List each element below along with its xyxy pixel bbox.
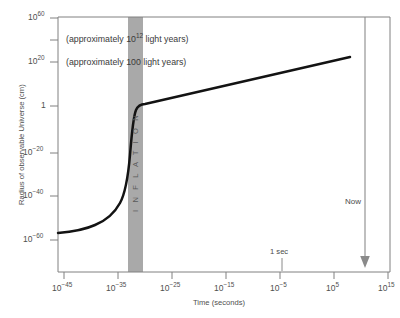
chart-plot-area	[0, 0, 400, 318]
annotation-1e12-light-years: (approximately 1012 light years)	[66, 35, 189, 44]
y-tick-label-1e-40: 10−40	[23, 191, 43, 200]
x-tick-label-1e-35: 10−35	[106, 284, 126, 293]
y-tick-label-1e-20: 10−20	[23, 148, 43, 157]
chart-figure: 1060 1020 1 10−20 10−40 10−60 Radius of …	[0, 0, 400, 318]
universe-radius-curve	[58, 57, 350, 233]
x-tick-label-1e-25: 10−25	[160, 284, 180, 293]
x-axis-ticks	[64, 272, 388, 279]
y-tick-label-1e20: 1020	[28, 57, 45, 66]
y-axis-ticks	[50, 18, 58, 240]
y-tick-label-1e60: 1060	[28, 13, 45, 22]
y-axis-title: Radius of observable Universe (cm)	[18, 84, 26, 205]
y-tick-label-1e-60: 10−60	[23, 235, 43, 244]
one-second-label: 1 sec	[270, 248, 288, 256]
x-tick-label-1e15: 1015	[378, 284, 395, 293]
y-tick-label-1: 1	[41, 101, 46, 110]
x-tick-label-1e-45: 10−45	[52, 284, 72, 293]
x-tick-label-1e5: 105	[326, 284, 339, 293]
annotation-100-light-years: (approximately 100 light years)	[66, 58, 186, 67]
inflation-label: I N F L A T I O N	[132, 113, 140, 212]
now-marker-line	[360, 17, 370, 268]
x-axis-title: Time (seconds)	[193, 299, 245, 307]
now-label: Now	[345, 198, 361, 206]
x-tick-label-1e-5: 10−5	[270, 284, 287, 293]
x-tick-label-1e-15: 10−15	[214, 284, 234, 293]
